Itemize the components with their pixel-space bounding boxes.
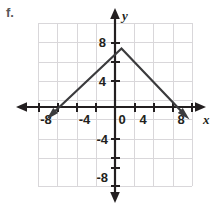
x-tick-label-4: 4 [139, 112, 147, 127]
x-tick-label--4: -4 [79, 112, 91, 127]
y-axis-up-arrow [110, 8, 120, 19]
y-tick-label--8: -8 [96, 170, 108, 185]
y-tick-label-8: 8 [99, 35, 106, 50]
part-label: f. [6, 6, 14, 19]
axis-arrowheads [16, 8, 206, 203]
x-axis-right-arrow [195, 102, 206, 112]
function-curve [47, 49, 190, 120]
graph-figure: f. [0, 0, 221, 207]
y-tick-label-4: 4 [99, 74, 107, 89]
x-axis-left-arrow [16, 102, 27, 112]
y-tick-label--4: -4 [96, 132, 108, 147]
x-tick-label-0: 0 [118, 112, 125, 127]
x-axis-label: x [202, 112, 210, 127]
y-axis-down-arrow [110, 192, 120, 203]
y-axis-label: y [120, 8, 128, 23]
coordinate-plane: -8 -4 0 4 8 8 4 -4 -8 y x [0, 0, 221, 207]
